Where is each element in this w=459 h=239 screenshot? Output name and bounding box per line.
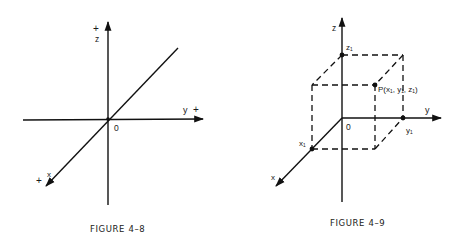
z1-point xyxy=(340,53,345,58)
z-axis-label: z xyxy=(332,23,336,33)
figure-4-8: + z y + 0 x + FIGURE 4–8 xyxy=(23,22,203,234)
x1-point xyxy=(310,147,315,152)
x-axis-label: x xyxy=(47,170,51,179)
y-axis-label: y xyxy=(183,105,188,115)
x-axis xyxy=(46,48,178,186)
z1-label: z₁ xyxy=(346,43,353,52)
figures-canvas: + z y + 0 x + FIGURE 4–8 z xyxy=(0,0,459,239)
y-axis-label: y xyxy=(425,105,430,115)
z-plus-sign: + xyxy=(93,23,99,34)
origin-label: 0 xyxy=(114,123,119,133)
origin-point xyxy=(106,117,110,121)
z-axis-label: z xyxy=(95,34,99,44)
y-plus-sign: + xyxy=(193,104,199,115)
y1-label: y₁ xyxy=(406,126,413,135)
figure-caption: FIGURE 4–8 xyxy=(90,224,145,234)
figure-4-9: z z₁ P(x₁, y₁, z₁) y 0 y₁ x₁ x FIGURE 4–… xyxy=(271,18,441,228)
x-axis xyxy=(276,118,342,186)
point-p-label: P(x₁, y₁, z₁) xyxy=(378,85,418,94)
y1-point xyxy=(401,116,406,121)
x-plus-sign: + xyxy=(36,175,42,186)
figure-caption: FIGURE 4–9 xyxy=(330,218,385,228)
origin-label: 0 xyxy=(346,122,351,132)
x1-label: x₁ xyxy=(299,139,306,148)
y-axis xyxy=(23,119,203,120)
x-axis-label: x xyxy=(271,173,275,182)
p-point xyxy=(373,83,378,88)
